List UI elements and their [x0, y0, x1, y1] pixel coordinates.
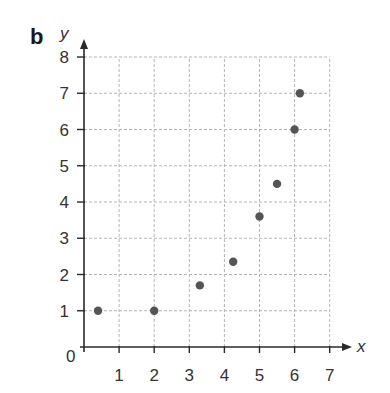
data-point: [273, 180, 281, 188]
x-tick-label: 3: [185, 366, 194, 385]
data-point: [229, 258, 237, 266]
y-tick-label: 2: [60, 266, 69, 285]
data-point: [296, 89, 304, 97]
tick-marks: [77, 57, 330, 353]
data-point: [255, 212, 263, 220]
data-point: [94, 307, 102, 315]
data-point: [290, 125, 298, 133]
x-tick-label: 4: [220, 366, 229, 385]
axes: [80, 39, 352, 352]
x-tick-label: 6: [290, 366, 299, 385]
y-axis-arrow-icon: [80, 39, 88, 49]
grid-lines: [84, 57, 330, 347]
y-tick-label: 8: [60, 48, 69, 67]
panel-label: b: [30, 24, 43, 49]
x-tick-label: 1: [114, 366, 123, 385]
origin-label: 0: [66, 347, 75, 366]
x-tick-label: 5: [255, 366, 264, 385]
x-axis-arrow-icon: [342, 343, 352, 351]
y-tick-label: 1: [60, 302, 69, 321]
y-tick-label: 7: [60, 84, 69, 103]
y-tick-label: 3: [60, 229, 69, 248]
y-tick-label: 6: [60, 121, 69, 140]
data-point: [196, 281, 204, 289]
tick-labels: 123456712345678: [60, 48, 335, 385]
y-axis-label: y: [59, 24, 70, 43]
data-point: [150, 307, 158, 315]
y-tick-label: 4: [60, 193, 69, 212]
x-axis-label: x: [356, 337, 366, 356]
x-tick-label: 2: [149, 366, 158, 385]
scatter-chart: b 123456712345678 x y 0: [0, 0, 390, 393]
y-tick-label: 5: [60, 157, 69, 176]
x-tick-label: 7: [325, 366, 334, 385]
